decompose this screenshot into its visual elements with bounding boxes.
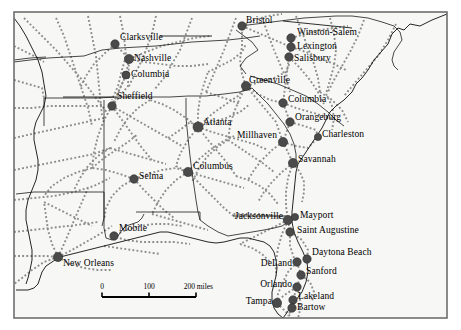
city-label: Saint Augustine xyxy=(297,226,359,236)
city-label: DeLand xyxy=(261,259,292,269)
city-marker[interactable] xyxy=(193,122,203,132)
city-marker[interactable] xyxy=(288,304,296,312)
city-marker[interactable] xyxy=(288,158,297,167)
city-label: Nashville xyxy=(134,54,171,64)
city-label: Columbia xyxy=(131,70,169,80)
city-label: Savannah xyxy=(298,155,336,165)
city-label: Clarksville xyxy=(120,33,163,43)
city-label: Atlanta xyxy=(203,118,232,128)
city-marker[interactable] xyxy=(291,213,298,220)
city-label: Columbus xyxy=(193,162,233,172)
city-label: Bartow xyxy=(297,303,326,313)
city-marker[interactable] xyxy=(238,22,246,30)
city-marker[interactable] xyxy=(111,40,119,48)
city-marker[interactable] xyxy=(278,137,287,146)
city-marker[interactable] xyxy=(297,271,305,279)
city-label: Charleston xyxy=(322,130,364,140)
city-label: Sanford xyxy=(306,267,337,277)
city-label: New Orleans xyxy=(63,259,114,269)
city-marker[interactable] xyxy=(130,175,138,183)
city-label: Columbia xyxy=(288,95,326,105)
city-label: Lakeland xyxy=(298,292,334,302)
city-label: Greenville xyxy=(249,76,290,86)
city-label: Millhaven xyxy=(237,131,277,141)
city-marker[interactable] xyxy=(289,296,297,304)
city-marker[interactable] xyxy=(293,258,301,266)
city-marker[interactable] xyxy=(108,102,116,110)
scale-tick-label: 0 xyxy=(100,283,104,291)
city-marker[interactable] xyxy=(287,34,295,42)
city-label: Sheffield xyxy=(117,92,153,102)
city-marker[interactable] xyxy=(124,54,133,63)
city-label: Orangeburg xyxy=(295,113,341,123)
city-label: Winston-Salem xyxy=(297,28,357,38)
city-marker[interactable] xyxy=(183,167,192,176)
city-label: Jacksonville xyxy=(235,212,283,222)
city-marker[interactable] xyxy=(303,255,311,263)
city-marker[interactable] xyxy=(110,232,118,240)
city-label: Salisbury xyxy=(294,54,331,64)
city-label: Tampa xyxy=(246,297,272,307)
city-label: Bristol xyxy=(246,16,273,26)
city-marker[interactable] xyxy=(122,71,130,79)
city-label: Selma xyxy=(139,172,163,182)
city-marker[interactable] xyxy=(53,252,62,261)
scale-tick-label: 100 xyxy=(143,283,154,291)
city-marker[interactable] xyxy=(272,298,281,307)
city-label: Mayport xyxy=(300,211,333,221)
city-marker[interactable] xyxy=(286,118,294,126)
map-container: ClarksvilleNashvilleColumbiaSheffieldBri… xyxy=(0,0,461,330)
city-marker[interactable] xyxy=(286,228,294,236)
scale-tick-label: 200 miles xyxy=(184,283,213,291)
city-marker[interactable] xyxy=(287,43,295,51)
city-marker[interactable] xyxy=(279,99,287,107)
city-label: Orlando xyxy=(260,280,292,290)
city-label: Mobile xyxy=(119,224,147,234)
city-marker[interactable] xyxy=(285,53,293,61)
city-marker[interactable] xyxy=(314,133,321,140)
city-label: Daytona Beach xyxy=(312,248,372,258)
city-label: Lexington xyxy=(297,42,337,52)
city-marker[interactable] xyxy=(293,283,301,291)
